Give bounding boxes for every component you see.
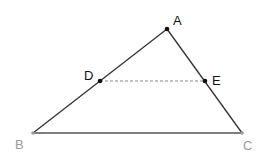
point-e bbox=[203, 79, 208, 84]
triangle-diagram: A D E B C bbox=[0, 0, 270, 161]
label-a: A bbox=[173, 13, 182, 28]
point-d bbox=[98, 79, 103, 84]
label-d: D bbox=[84, 68, 93, 83]
label-e: E bbox=[212, 73, 221, 88]
point-a bbox=[165, 27, 170, 32]
point-c bbox=[240, 131, 244, 135]
label-b: B bbox=[15, 137, 24, 152]
label-c: C bbox=[243, 138, 252, 153]
point-b bbox=[31, 131, 35, 135]
